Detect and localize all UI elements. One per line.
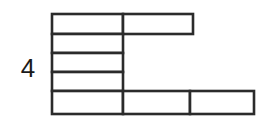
grid-diagram <box>0 0 272 121</box>
grid-cell-r1c2 <box>123 14 193 34</box>
grid-cell-r4c1 <box>52 72 123 91</box>
grid-cell-r1c1 <box>52 14 123 34</box>
grid-cell-r3c1 <box>52 53 123 72</box>
grid-cell-r2c1 <box>52 34 123 53</box>
grid-cell-r5c1 <box>52 91 123 114</box>
grid-cells-group <box>52 14 254 114</box>
grid-cell-r5c2 <box>123 91 190 114</box>
grid-cell-r5c3 <box>190 91 254 114</box>
figure-root: 4 <box>0 0 272 121</box>
